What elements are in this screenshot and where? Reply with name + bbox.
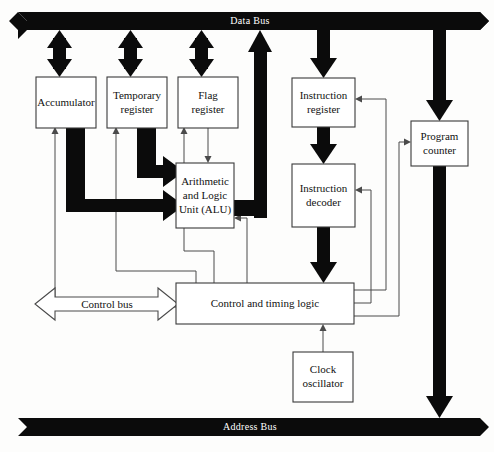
databus-to-flag-register-arrow bbox=[189, 30, 214, 77]
block-instruction-register[interactable]: Instruction register bbox=[292, 78, 355, 127]
instruction-decoder-label-line1: Instruction bbox=[300, 182, 348, 194]
control-to-instruction-decoder-line bbox=[354, 187, 371, 304]
block-program-counter[interactable]: Program counter bbox=[411, 121, 468, 166]
alu-label-line3: Unit (ALU) bbox=[179, 203, 232, 216]
instruction-decoder-label-line2: decoder bbox=[306, 196, 341, 208]
block-flag-register[interactable]: Flag register bbox=[178, 77, 238, 128]
program-counter-label-line2: counter bbox=[423, 144, 456, 156]
control-to-instruction-register-line bbox=[354, 96, 386, 291]
instruction-register-label-line1: Instruction bbox=[300, 89, 348, 101]
data-bus: Data Bus bbox=[9, 12, 489, 39]
control-to-program-counter-line bbox=[354, 139, 411, 317]
program-counter-to-address-bus-arrow bbox=[426, 166, 453, 418]
block-clock-oscillator[interactable]: Clock oscillator bbox=[293, 352, 353, 402]
alu-to-flag-register-line bbox=[205, 128, 212, 163]
alu-label-line2: and Logic bbox=[183, 189, 227, 201]
diagram-canvas: Data Bus Address Bus bbox=[0, 0, 494, 452]
databus-to-temporary-register-arrow bbox=[118, 30, 143, 77]
address-bus-label: Address Bus bbox=[223, 421, 277, 432]
flag-register-label-line2: register bbox=[192, 103, 225, 115]
instruction-register-label-line2: register bbox=[307, 103, 340, 115]
databus-to-accumulator-arrow bbox=[47, 30, 72, 77]
block-accumulator[interactable]: Accumulator bbox=[36, 77, 96, 128]
alu-label-line1: Arithmetic bbox=[181, 175, 229, 187]
block-control-timing-logic[interactable]: Control and timing logic bbox=[176, 283, 354, 324]
fat-data-paths bbox=[66, 30, 272, 221]
block-temporary-register[interactable]: Temporary register bbox=[107, 77, 167, 128]
clock-oscillator-label-line2: oscillator bbox=[303, 377, 344, 389]
decoder-to-control-logic-arrow bbox=[310, 227, 337, 283]
clock-to-control-line bbox=[320, 324, 327, 352]
databus-to-instruction-register-arrow bbox=[310, 30, 337, 78]
cpu-block-diagram: Data Bus Address Bus bbox=[0, 0, 494, 452]
control-to-alu-line bbox=[234, 215, 247, 284]
address-bus: Address Bus bbox=[18, 418, 489, 436]
flag-register-label-line1: Flag bbox=[198, 89, 218, 101]
control-bus-label: Control bus bbox=[81, 298, 133, 310]
program-counter-label-line1: Program bbox=[421, 130, 459, 142]
alu-to-databus-riser bbox=[254, 46, 267, 218]
control-timing-logic-label: Control and timing logic bbox=[211, 297, 320, 309]
instruction-register-to-decoder-arrow bbox=[310, 127, 337, 164]
block-instruction-decoder[interactable]: Instruction decoder bbox=[292, 164, 355, 227]
block-alu[interactable]: Arithmetic and Logic Unit (ALU) bbox=[176, 163, 234, 228]
temporary-register-label-line2: register bbox=[121, 103, 154, 115]
temporary-register-label-line1: Temporary bbox=[113, 89, 162, 101]
clock-oscillator-label-line1: Clock bbox=[310, 363, 337, 375]
databus-to-program-counter-arrow bbox=[426, 30, 453, 121]
control-bus: Control bus bbox=[35, 288, 178, 320]
data-bus-label: Data Bus bbox=[230, 15, 269, 26]
accumulator-label: Accumulator bbox=[37, 96, 95, 108]
